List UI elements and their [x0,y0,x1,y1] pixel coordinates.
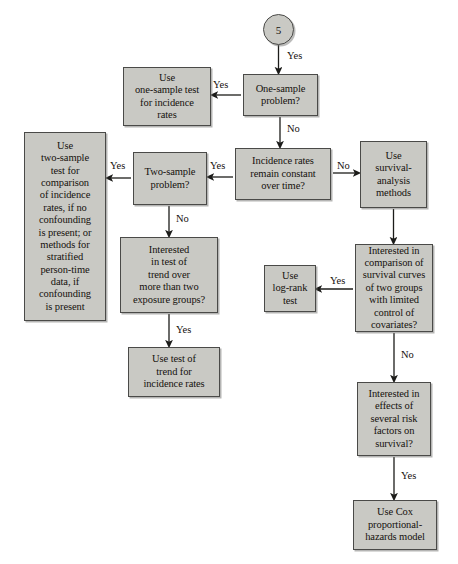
flowchart-canvas: 5 One-sample problem?Use one-sample test… [0,0,458,564]
node-use_cox_model[interactable]: Use Cox proportional- hazards model [353,500,437,550]
node-use_log_rank_test[interactable]: Use log-rank test [264,265,316,312]
node-use_survival_analysis[interactable]: Use survival- analysis methods [360,141,427,208]
edge-label-one-sample-yes-to-use-one: Yes [213,80,228,91]
node-incidence_rates_constant-label: Incidence rates remain constant over tim… [247,155,318,192]
node-one_sample_problem[interactable]: One-sample problem? [243,74,318,116]
node-incidence_rates_constant[interactable]: Incidence rates remain constant over tim… [235,148,331,200]
edge-label-trend-yes-to-use-trend: Yes [176,325,191,336]
edge-label-curves-no-to-risk-factors: No [401,350,414,361]
node-use_log_rank_test-label: Use log-rank test [270,270,311,307]
edge-label-incidence-yes-to-two-sample: Yes [210,161,225,172]
node-interested_risk_factors-label: Interested in effects of several risk fa… [366,388,423,450]
edge-label-curves-yes-to-log-rank: Yes [330,276,345,287]
edge-label-two-sample-no-to-trend: No [176,214,189,225]
node-use_one_sample_test-label: Use one-sample test for incidence rates [132,72,202,122]
node-use_test_of_trend[interactable]: Use test of trend for incidence rates [128,347,220,397]
edge-label-incidence-no-to-survival: No [337,161,350,172]
node-use_cox_model-label: Use Cox proportional- hazards model [362,506,428,543]
node-use_one_sample_test[interactable]: Use one-sample test for incidence rates [123,67,211,126]
edge-label-one-sample-no-to-incidence: No [287,124,300,135]
start-node[interactable]: 5 [263,14,294,45]
node-use_survival_analysis-label: Use survival- analysis methods [372,150,414,200]
node-two_sample_problem[interactable]: Two-sample problem? [133,152,207,205]
node-use_two_sample_test-label: Use two-sample test for comparison of in… [36,140,95,313]
node-interested_survival_curves-label: Interested in comparison of survival cur… [360,245,428,332]
start-node-label: 5 [276,24,282,36]
node-one_sample_problem-label: One-sample problem? [253,83,309,108]
edge-label-two-sample-yes-to-use-two: Yes [110,161,125,172]
node-interested_trend[interactable]: Interested in test of trend over more th… [120,237,218,313]
edge-label-start-to-one-sample: Yes [287,51,302,62]
node-use_test_of_trend-label: Use test of trend for incidence rates [140,353,207,390]
edge-label-risk-factors-yes-to-cox: Yes [401,471,416,482]
node-two_sample_problem-label: Two-sample problem? [142,166,199,191]
node-interested_trend-label: Interested in test of trend over more th… [130,244,208,306]
node-interested_risk_factors[interactable]: Interested in effects of several risk fa… [357,382,431,456]
node-use_two_sample_test[interactable]: Use two-sample test for comparison of in… [24,132,106,321]
node-interested_survival_curves[interactable]: Interested in comparison of survival cur… [355,244,433,332]
